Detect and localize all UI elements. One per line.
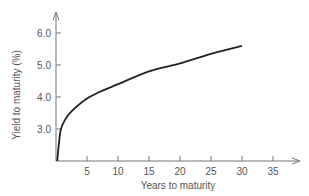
y-tick-label: 4.0 — [37, 92, 51, 103]
x-tick-label: 30 — [236, 166, 248, 177]
x-axis-label: Years to maturity — [141, 180, 216, 191]
x-tick-label: 15 — [143, 166, 155, 177]
yield-curve-line — [57, 46, 242, 161]
y-tick-label: 3.0 — [37, 124, 51, 135]
x-tick-label: 35 — [267, 166, 279, 177]
y-tick-label: 6.0 — [37, 28, 51, 39]
x-tick-label: 5 — [84, 166, 90, 177]
x-tick-label: 25 — [205, 166, 217, 177]
y-axis-label: Yield to maturity (%) — [11, 50, 22, 140]
axis-ticks: 51015202530353.04.05.06.0 — [37, 28, 279, 178]
y-tick-label: 5.0 — [37, 60, 51, 71]
axes — [53, 12, 300, 164]
x-tick-label: 10 — [112, 166, 124, 177]
yield-curve-chart: 51015202530353.04.05.06.0 Years to matur… — [0, 0, 309, 196]
x-tick-label: 20 — [174, 166, 186, 177]
chart-svg: 51015202530353.04.05.06.0 Years to matur… — [0, 0, 309, 196]
